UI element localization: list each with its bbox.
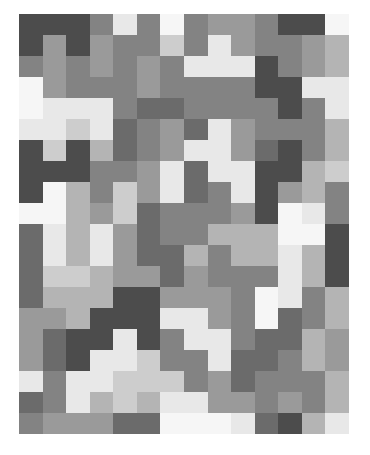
mosaic-cell — [137, 98, 161, 120]
mosaic-cell — [231, 392, 255, 414]
mosaic-cell — [43, 161, 67, 183]
mosaic-cell — [160, 392, 184, 414]
mosaic-cell — [184, 350, 208, 393]
mosaic-cell — [208, 371, 232, 414]
mosaic-cell — [19, 350, 43, 372]
mosaic-cell — [137, 119, 161, 162]
mosaic-cell — [231, 77, 255, 120]
mosaic-cell — [66, 224, 90, 267]
mosaic-cell — [19, 266, 43, 309]
mosaic-cell — [325, 119, 349, 162]
mosaic-cell — [66, 182, 90, 225]
mosaic-cell — [113, 287, 137, 330]
mosaic-cell — [325, 329, 349, 372]
mosaic-cell — [90, 14, 114, 36]
mosaic-cell — [302, 371, 326, 414]
mosaic-cell — [90, 308, 114, 351]
mosaic-cell — [113, 266, 137, 288]
mosaic-column — [325, 14, 349, 434]
mosaic-cell — [160, 161, 184, 204]
mosaic-cell — [325, 161, 349, 183]
mosaic-cell — [208, 182, 232, 225]
mosaic-cell — [255, 14, 279, 57]
mosaic-cell — [278, 392, 302, 414]
mosaic-cell — [208, 224, 232, 246]
mosaic-cell — [184, 266, 208, 309]
mosaic-cell — [90, 413, 114, 434]
mosaic-cell — [137, 413, 161, 434]
mosaic-cell — [184, 56, 208, 78]
mosaic-column — [255, 14, 279, 434]
mosaic-cell — [278, 350, 302, 393]
mosaic-cell — [302, 77, 326, 99]
mosaic-cell — [184, 14, 208, 57]
mosaic-cell — [325, 224, 349, 267]
mosaic-cell — [43, 35, 67, 99]
mosaic-cell — [278, 287, 302, 309]
mosaic-cell — [278, 308, 302, 351]
mosaic-cell — [66, 140, 90, 183]
mosaic-cell — [160, 371, 184, 393]
mosaic-cell — [66, 287, 90, 330]
mosaic-cell — [113, 161, 137, 183]
mosaic-cell — [255, 56, 279, 99]
mosaic-cell — [43, 14, 67, 36]
mosaic-cell — [160, 308, 184, 330]
mosaic-cell — [278, 182, 302, 204]
mosaic-cell — [231, 119, 255, 162]
mosaic-cell — [325, 35, 349, 78]
mosaic-cell — [184, 308, 208, 351]
mosaic-cell — [231, 161, 255, 204]
mosaic-cell — [66, 119, 90, 141]
mosaic-cell — [19, 203, 43, 225]
mosaic-cell — [19, 119, 43, 141]
mosaic-cell — [160, 98, 184, 120]
mosaic-cell — [278, 140, 302, 183]
mosaic-cell — [278, 77, 302, 120]
mosaic-cell — [90, 224, 114, 267]
mosaic-cell — [231, 308, 255, 351]
mosaic-cell — [19, 140, 43, 183]
mosaic-cell — [90, 371, 114, 393]
mosaic-column — [43, 14, 67, 434]
mosaic-cell — [160, 413, 184, 434]
mosaic-cell — [325, 287, 349, 330]
mosaic-cell — [90, 161, 114, 204]
mosaic-cell — [43, 371, 67, 414]
mosaic-cell — [160, 56, 184, 99]
mosaic-cell — [208, 329, 232, 372]
mosaic-cell — [113, 119, 137, 162]
mosaic-cell — [184, 77, 208, 120]
mosaic-cell — [19, 413, 43, 434]
mosaic-cell — [43, 329, 67, 372]
mosaic-cell — [184, 392, 208, 414]
mosaic-cell — [184, 203, 208, 246]
mosaic-cell — [19, 182, 43, 204]
mosaic-cell — [113, 14, 137, 36]
mosaic-cell — [278, 245, 302, 288]
mosaic-cell — [66, 371, 90, 414]
mosaic-column — [137, 14, 161, 434]
mosaic-column — [19, 14, 43, 434]
mosaic-cell — [66, 14, 90, 57]
mosaic-cell — [66, 77, 90, 99]
mosaic-cell — [208, 35, 232, 78]
mosaic-cell — [43, 413, 67, 434]
mosaic-column — [278, 14, 302, 434]
mosaic-cell — [90, 350, 114, 372]
mosaic-cell — [208, 245, 232, 288]
mosaic-cell — [19, 56, 43, 78]
mosaic-grid — [19, 14, 349, 434]
mosaic-cell — [278, 14, 302, 36]
mosaic-cell — [137, 266, 161, 288]
mosaic-cell — [113, 35, 137, 78]
mosaic-cell — [43, 308, 67, 330]
mosaic-cell — [137, 392, 161, 414]
mosaic-cell — [231, 203, 255, 225]
mosaic-cell — [19, 371, 43, 393]
mosaic-cell — [43, 98, 67, 141]
mosaic-cell — [19, 14, 43, 57]
mosaic-cell — [184, 119, 208, 141]
mosaic-cell — [66, 266, 90, 288]
mosaic-cell — [43, 182, 67, 225]
